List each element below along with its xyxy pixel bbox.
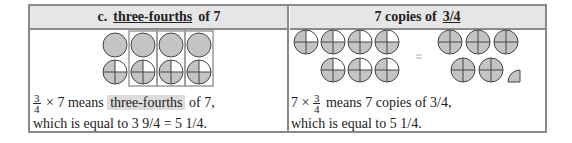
- remainder-quarter: [508, 70, 520, 82]
- fraction-3-4: 34: [33, 93, 41, 114]
- right-explanation-line2: which is equal to 5 1/4.: [291, 114, 422, 133]
- header-underlined-term: 3/4: [443, 9, 461, 24]
- whole-circle: [438, 30, 462, 54]
- fraction-denominator: 4: [33, 104, 41, 114]
- times-seven: × 7: [46, 95, 64, 110]
- of-seven: of 7,: [189, 95, 215, 110]
- whole-circle: [466, 30, 490, 54]
- header-three-fourths-of-7: c.three-fourthsof 7: [30, 6, 288, 30]
- three-quarter-circle: [131, 60, 155, 84]
- right-explanation-line1: 7 × 34 means 7 copies of 3/4,: [291, 93, 452, 114]
- highlighted-term: three-fourths: [107, 95, 185, 110]
- fraction-denominator: 4: [313, 104, 321, 114]
- three-quarter-circle: [187, 60, 211, 84]
- three-quarter-circle: [348, 58, 372, 82]
- whole-circle: [494, 30, 518, 54]
- full-circle: [131, 33, 155, 57]
- three-quarter-circle: [375, 58, 399, 82]
- three-quarter-circle: [159, 60, 183, 84]
- full-circle: [103, 33, 127, 57]
- whole-circle: [479, 58, 503, 82]
- header-prefix: c.: [98, 9, 108, 24]
- header-suffix: of 7: [198, 9, 220, 24]
- whole-circle: [451, 58, 475, 82]
- three-quarter-circle: [375, 30, 399, 54]
- header-prefix: 7 copies of: [374, 9, 436, 24]
- full-circle: [159, 33, 183, 57]
- full-circle: [187, 33, 211, 57]
- seven-times: 7 ×: [291, 95, 309, 110]
- means-7-copies: means 7 copies of 3/4,: [326, 95, 452, 110]
- three-quarter-circle: [348, 30, 372, 54]
- left-fraction-figure: [100, 30, 220, 88]
- column-divider: [287, 6, 289, 131]
- means-word: means: [68, 95, 104, 110]
- right-fraction-figure: [290, 27, 540, 87]
- fraction-3-4: 34: [313, 93, 321, 114]
- left-explanation-line2: which is equal to 3 9/4 = 5 1/4.: [33, 114, 207, 133]
- header-underlined-term: three-fourths: [113, 9, 192, 24]
- three-quarter-circle: [294, 30, 318, 54]
- left-explanation-line1: 34 × 7 means three-fourths of 7,: [33, 93, 215, 114]
- three-quarter-circle: [321, 58, 345, 82]
- three-quarter-circle: [321, 30, 345, 54]
- three-quarter-circle: [103, 60, 127, 84]
